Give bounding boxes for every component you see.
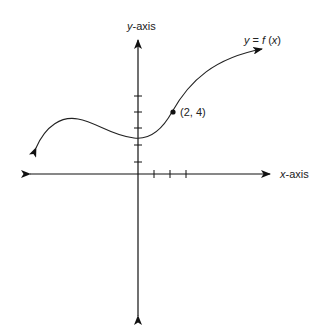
chart: y-axis x-axis y = f (x) (2, 4) [0,0,325,328]
point-label: (2, 4) [180,106,206,118]
x-axis-label: x-axis [280,168,309,180]
curve-label: y = f (x) [244,34,281,46]
y-axis-label: y-axis [127,20,156,32]
plot-area [0,0,325,328]
marked-point [170,109,175,114]
function-curve [36,49,262,148]
